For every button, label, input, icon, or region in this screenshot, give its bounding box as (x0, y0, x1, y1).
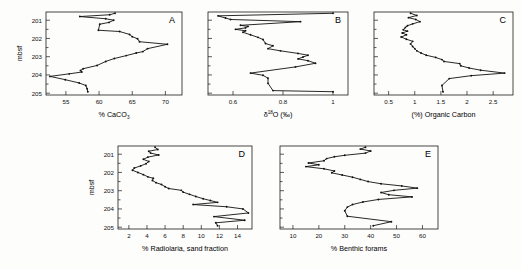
data-point (448, 78, 450, 80)
panel-E-series (306, 147, 417, 225)
data-point (154, 146, 156, 148)
data-point (307, 60, 309, 62)
data-point (352, 176, 354, 178)
data-point (267, 48, 269, 50)
data-point (412, 23, 414, 25)
panel-E-plot: 102030405060% Benthic foramsE (258, 134, 446, 269)
data-point (405, 38, 407, 40)
y-axis-title: mbsf (88, 180, 95, 195)
data-point (412, 40, 414, 42)
panel-A-plot: 55606570201202203204205mbsf% CaCO3A (0, 0, 190, 135)
data-point (108, 21, 110, 23)
data-point (460, 65, 462, 67)
data-point (250, 72, 252, 74)
data-point (139, 41, 141, 43)
data-point (140, 165, 142, 167)
data-point (441, 59, 443, 61)
data-point (388, 194, 390, 196)
data-point (114, 12, 116, 14)
data-point (416, 15, 418, 17)
data-point (180, 189, 182, 191)
data-point (408, 17, 410, 19)
data-point (79, 16, 81, 18)
data-point (280, 50, 282, 52)
panel-A-frame (46, 12, 182, 95)
x-tick-label: 30 (341, 232, 348, 239)
data-point (142, 51, 144, 53)
panel-E: 102030405060% Benthic foramsE (258, 134, 446, 269)
data-point (244, 219, 246, 221)
panel-C-frame (374, 12, 513, 95)
x-tick-label: 6 (163, 232, 167, 239)
data-point (168, 188, 170, 190)
data-point (272, 45, 274, 47)
panel-C-series (401, 13, 504, 91)
data-point (125, 55, 127, 57)
data-point (99, 23, 101, 25)
data-point (459, 63, 461, 65)
data-point (262, 74, 264, 76)
data-point (414, 48, 416, 50)
x-tick-label: 0.5 (384, 98, 393, 105)
svg-text:mbsf: mbsf (16, 46, 23, 61)
data-point (68, 73, 70, 75)
data-point (147, 176, 149, 178)
data-point (302, 56, 304, 58)
data-point (416, 187, 418, 189)
x-tick-label: 60 (419, 232, 426, 239)
data-point (209, 200, 211, 202)
data-point (344, 210, 346, 212)
data-point (245, 30, 247, 32)
data-point (393, 189, 395, 191)
x-tick-label: 50 (393, 232, 400, 239)
data-point (346, 215, 348, 217)
x-axis-title: % Benthic forams (331, 244, 388, 253)
data-point (346, 206, 348, 208)
data-point (148, 150, 150, 152)
panel-letter-D: D (239, 149, 246, 159)
data-point (416, 50, 418, 52)
x-tick-label: 14 (234, 232, 241, 239)
data-point (257, 36, 259, 38)
data-point (401, 185, 403, 187)
x-tick-label: 1.5 (437, 98, 446, 105)
data-point (158, 154, 160, 156)
data-point (225, 17, 227, 19)
data-point (85, 85, 87, 87)
data-point (137, 38, 139, 40)
data-point (307, 54, 309, 56)
x-tick-label: 1 (413, 98, 417, 105)
data-point (80, 70, 82, 72)
data-point (150, 152, 152, 154)
x-tick-label: 10 (290, 232, 297, 239)
data-point (242, 31, 244, 33)
data-point (359, 148, 361, 150)
data-point (380, 192, 382, 194)
data-point (323, 168, 325, 170)
data-point (420, 52, 422, 54)
data-point (333, 156, 335, 158)
data-point (137, 172, 139, 174)
data-point (404, 27, 406, 29)
x-axis-title: δ18O (‰) (264, 110, 293, 119)
data-point (332, 91, 334, 93)
data-point (245, 27, 247, 29)
data-point (406, 30, 408, 32)
data-point (81, 71, 83, 73)
x-axis-title: % Radiolaria, sand fraction (142, 244, 228, 253)
panel-C-plot: 0.511.522.5(%) Organic CarbonC (352, 0, 521, 135)
panel-B-series (218, 13, 333, 91)
data-point (410, 12, 412, 14)
data-point (189, 193, 191, 195)
data-point (415, 19, 417, 21)
data-point (362, 201, 364, 203)
data-point (142, 174, 144, 176)
data-point (145, 163, 147, 165)
data-point (97, 29, 99, 31)
data-point (151, 180, 153, 182)
data-point (402, 29, 404, 31)
data-point (113, 19, 115, 21)
panel-letter-E: E (425, 149, 431, 159)
svg-text:mbsf: mbsf (88, 180, 95, 195)
data-point (359, 178, 361, 180)
